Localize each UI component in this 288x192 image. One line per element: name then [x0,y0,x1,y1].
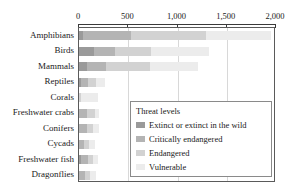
bar-row [79,47,274,56]
legend-swatch [136,150,145,156]
bar-row [79,31,274,40]
bar-segment [83,31,131,40]
x-axis-tick [275,24,276,28]
bar-segment [90,171,96,180]
category-label: Cycads [0,138,74,148]
bar-segment [95,109,99,118]
category-label: Birds [0,45,74,55]
bar-segment [94,47,115,56]
legend-item: Critically endangered [136,132,271,146]
legend-swatch [136,136,145,142]
category-label: Freshwater crabs [0,107,74,117]
x-axis-tick-label: 1,500 [216,11,235,21]
category-label: Dragonflies [0,169,74,179]
bar-segment [93,124,99,133]
x-axis-tick-label: 2,000 [265,11,284,21]
bar-segment [87,62,106,71]
bar-segment [131,31,206,40]
legend-item: Endangered [136,146,271,160]
bar-segment [93,155,98,164]
bar-segment [81,93,98,102]
legend-label: Extinct or extinct in the wild [149,120,247,130]
legend: Threat levels Extinct or extinct in the … [130,101,272,177]
bar-segment [81,78,88,87]
legend-item: Vulnerable [136,160,271,174]
x-axis-tick-label: 0 [76,11,80,21]
bar-segment [79,47,94,56]
bar-segment [88,78,96,87]
x-axis-tick-label: 500 [121,11,134,21]
bar-segment [115,47,150,56]
bar-segment [151,47,210,56]
bar-row [79,78,274,87]
bar-segment [206,31,271,40]
category-label: Freshwater fish [0,154,74,164]
x-axis-tick-label: 1,000 [167,11,186,21]
legend-swatch [136,164,145,170]
legend-label: Endangered [149,148,190,158]
bar-segment [150,62,198,71]
bar-segment [87,109,94,118]
bar-chart: 05001,0001,5002,000 AmphibiansBirdsMamma… [0,0,288,192]
category-label: Conifers [0,123,74,133]
bar-segment [106,62,150,71]
category-label: Reptiles [0,76,74,86]
legend-items: Extinct or extinct in the wildCritically… [136,118,271,174]
bar-segment [81,155,88,164]
category-axis-labels: AmphibiansBirdsMammalsReptilesCoralsFres… [0,27,74,182]
legend-label: Vulnerable [149,162,186,172]
legend-label: Critically endangered [149,134,222,144]
legend-swatch [136,122,145,128]
category-label: Corals [0,92,74,102]
legend-item: Extinct or extinct in the wild [136,118,271,132]
bar-segment [79,109,87,118]
bar-row [79,62,274,71]
bar-segment [89,140,95,149]
category-label: Mammals [0,61,74,71]
bar-segment [96,78,105,87]
legend-title: Threat levels [136,105,271,117]
bar-segment [79,124,87,133]
bar-segment [79,62,87,71]
category-label: Amphibians [0,30,74,40]
